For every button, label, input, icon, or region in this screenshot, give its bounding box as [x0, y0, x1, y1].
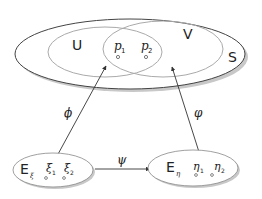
svg-text:2: 2	[148, 47, 152, 55]
set-u-label: U	[72, 37, 82, 53]
svg-text:1: 1	[52, 169, 56, 176]
manifold-chart-diagram: U V S p 1 p 2 ϕ φ ψ E ξ ξ 1 ξ 2 E η η 1	[0, 0, 262, 199]
set-v-label: V	[183, 26, 193, 42]
map-phi-label: ϕ	[64, 106, 72, 120]
svg-text:η: η	[214, 160, 221, 173]
svg-text:E: E	[20, 161, 29, 177]
map-varphi-label: φ	[194, 106, 203, 120]
map-psi-label: ψ	[117, 153, 127, 167]
space-e-eta: E η η 1 η 2	[148, 150, 240, 188]
svg-text:1: 1	[121, 47, 125, 55]
svg-text:1: 1	[200, 167, 204, 174]
space-e-xi: E ξ ξ 1 ξ 2	[13, 153, 95, 189]
svg-text:E: E	[166, 159, 175, 175]
set-s-label: S	[228, 49, 237, 65]
svg-text:η: η	[193, 160, 200, 173]
svg-text:2: 2	[70, 169, 74, 176]
svg-text:2: 2	[221, 167, 225, 174]
